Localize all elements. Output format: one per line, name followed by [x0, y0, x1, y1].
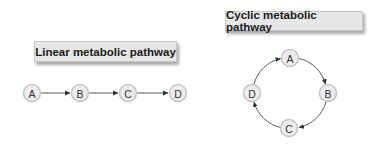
cyclic-node-b: B	[320, 85, 337, 102]
node-label: B	[76, 88, 83, 100]
cyclic-edges	[254, 59, 326, 128]
node-label: C	[285, 123, 293, 135]
arrow-d-a	[254, 59, 281, 85]
node-label: C	[124, 88, 132, 100]
pathway-diagram: A B C D A B C	[0, 0, 380, 145]
node-label: A	[28, 88, 35, 100]
linear-node-a: A	[24, 85, 41, 102]
arrow-c-d	[254, 102, 281, 128]
cyclic-nodes: A B C D	[244, 50, 337, 137]
cyclic-node-c: C	[281, 120, 298, 137]
node-label: B	[324, 88, 331, 100]
cyclic-node-a: A	[282, 50, 299, 67]
linear-node-d: D	[170, 85, 187, 102]
node-label: D	[248, 88, 256, 100]
node-label: A	[286, 53, 293, 65]
arrow-b-c	[299, 102, 326, 128]
linear-node-c: C	[120, 85, 137, 102]
linear-node-b: B	[72, 85, 89, 102]
cyclic-node-d: D	[244, 85, 261, 102]
node-label: D	[174, 88, 182, 100]
arrow-a-b	[299, 59, 326, 85]
